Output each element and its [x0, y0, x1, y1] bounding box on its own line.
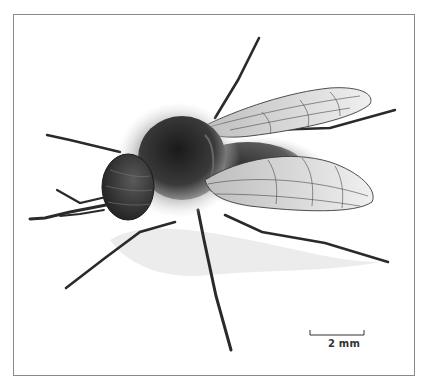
scale-bar [0, 0, 425, 382]
scale-bar-label: 2 mm [322, 338, 366, 349]
